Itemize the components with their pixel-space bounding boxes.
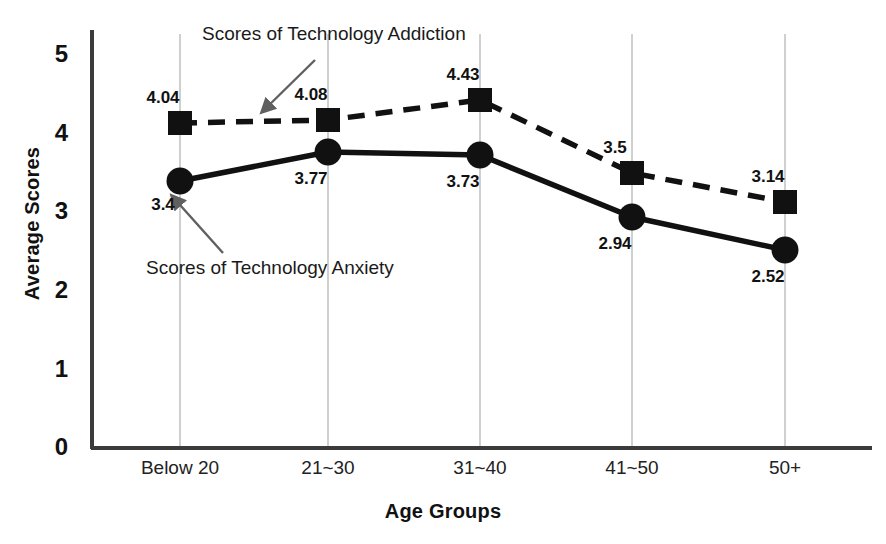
y-tick-3: 3	[28, 199, 68, 223]
addiction-marker-0	[168, 111, 192, 135]
addiction-label-21-30: 4.08	[266, 86, 356, 103]
anxiety-marker-2	[467, 142, 494, 169]
anxiety-marker-4	[772, 237, 799, 264]
anxiety-marker-1	[315, 139, 342, 166]
annotation-technology-anxiety: Scores of Technology Anxiety	[146, 258, 394, 277]
addiction-label-31-40: 4.43	[418, 66, 508, 83]
y-tick-5: 5	[28, 42, 68, 66]
addiction-marker-3	[620, 161, 644, 185]
addiction-label-below-20: 4.04	[118, 89, 208, 106]
x-tick-31-40: 31~40	[400, 458, 560, 477]
anxiety-label-21-30: 3.77	[266, 170, 356, 187]
anxiety-label-below-20: 3.4	[118, 196, 208, 213]
chart-figure: Average Scores Age Groups 5 4 3 2 1 0 Be…	[0, 0, 886, 544]
anxiety-label-41-50: 2.94	[570, 235, 660, 252]
anxiety-label-50-plus: 2.52	[723, 268, 813, 285]
anxiety-marker-3	[619, 204, 646, 231]
y-tick-1: 1	[28, 357, 68, 381]
anxiety-label-31-40: 3.73	[418, 173, 508, 190]
x-tick-50-plus: 50+	[705, 458, 865, 477]
x-tick-below-20: Below 20	[100, 458, 260, 477]
addiction-label-50-plus: 3.14	[723, 168, 813, 185]
y-tick-4: 4	[28, 121, 68, 145]
addiction-marker-1	[316, 108, 340, 132]
addiction-label-41-50: 3.5	[570, 139, 660, 156]
y-tick-2: 2	[28, 278, 68, 302]
y-tick-0: 0	[28, 435, 68, 459]
x-axis-title: Age Groups	[343, 500, 543, 523]
x-tick-21-30: 21~30	[248, 458, 408, 477]
addiction-marker-4	[773, 190, 797, 214]
annotation-technology-addiction: Scores of Technology Addiction	[202, 24, 466, 43]
addiction-marker-2	[468, 88, 492, 112]
series-technology-anxiety	[167, 139, 799, 264]
x-tick-41-50: 41~50	[552, 458, 712, 477]
anxiety-marker-0	[167, 168, 194, 195]
